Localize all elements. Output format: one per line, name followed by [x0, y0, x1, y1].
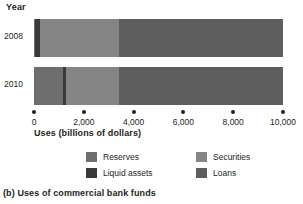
x-tick-dot [181, 110, 185, 114]
bar-row[interactable] [34, 19, 283, 57]
legend-label: Liquid assets [103, 168, 153, 178]
x-tick-label: 10,000 [270, 117, 296, 127]
x-tick-dot [231, 110, 235, 114]
bar-segment-securities[interactable] [66, 67, 119, 105]
bar-row[interactable] [34, 67, 283, 105]
legend-swatch-liquid-assets [86, 168, 97, 178]
legend-label: Loans [213, 168, 236, 178]
legend-item-liquid-assets[interactable]: Liquid assets [86, 168, 153, 178]
category-label-2008: 2008 [4, 31, 23, 41]
bar-segment-loans[interactable] [119, 67, 283, 105]
category-label-2010: 2010 [4, 79, 23, 89]
bar-segment-loans[interactable] [119, 19, 283, 57]
legend-swatch-securities [196, 152, 207, 162]
bank-funds-chart: Year 2008 2010 02,0004,0006,0008,00010,0… [0, 0, 303, 204]
plot-area [34, 17, 283, 109]
legend-label: Reserves [103, 152, 139, 162]
bar-segment-securities[interactable] [40, 19, 119, 57]
x-tick-label: 8,000 [223, 117, 244, 127]
legend-item-reserves[interactable]: Reserves [86, 152, 139, 162]
legend-item-loans[interactable]: Loans [196, 168, 236, 178]
x-tick-dot [281, 110, 285, 114]
legend-swatch-reserves [86, 152, 97, 162]
legend-swatch-loans [196, 168, 207, 178]
bar-segment-reserves[interactable] [34, 67, 63, 105]
x-tick-label: 2,000 [73, 117, 94, 127]
x-axis-title: Uses (billions of dollars) [34, 128, 141, 138]
figure-caption: (b) Uses of commercial bank funds [3, 188, 156, 198]
x-tick-label: 4,000 [123, 117, 144, 127]
x-tick-dot [132, 110, 136, 114]
x-tick-label: 6,000 [173, 117, 194, 127]
x-tick-dot [32, 110, 36, 114]
legend-item-securities[interactable]: Securities [196, 152, 250, 162]
y-axis-title: Year [6, 2, 26, 12]
x-tick-dot [82, 110, 86, 114]
legend-label: Securities [213, 152, 250, 162]
x-tick-label: 0 [32, 117, 37, 127]
